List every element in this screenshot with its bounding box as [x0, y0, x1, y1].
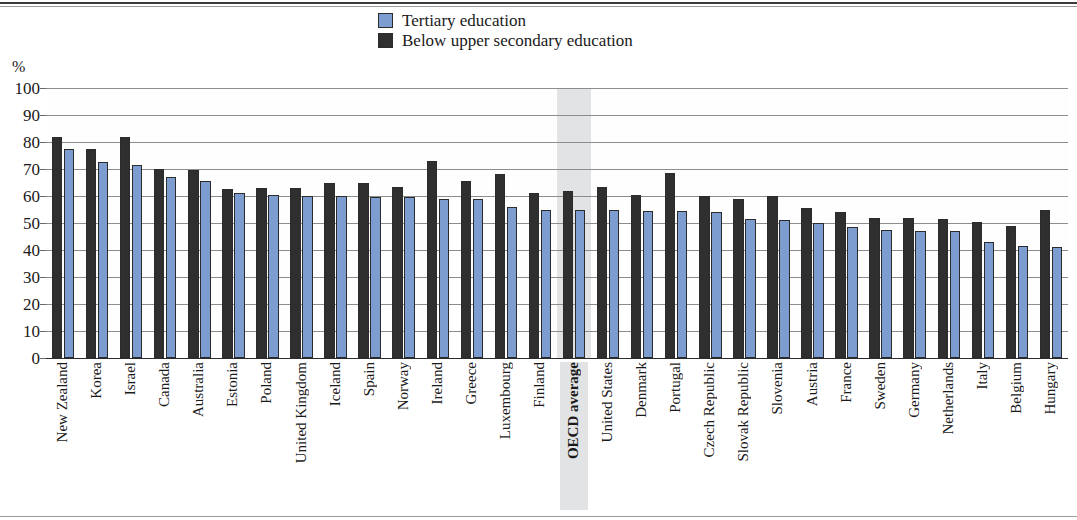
bar-group [932, 88, 966, 358]
bar-below-upper-secondary [290, 188, 301, 358]
bar-tertiary-education [370, 197, 381, 358]
bar-group [421, 88, 455, 358]
bar-group [455, 88, 489, 358]
x-axis-tick-label: Korea [89, 362, 104, 399]
bar-group [625, 88, 659, 358]
x-axis-tick-label: Luxembourg [498, 362, 513, 439]
bar-tertiary-education [200, 181, 211, 358]
gridline [46, 358, 1068, 359]
y-axis-tick-label: 40 [23, 242, 40, 259]
x-axis-tick-label: Netherlands [941, 362, 956, 434]
legend-item-label: Below upper secondary education [402, 32, 633, 49]
y-axis-tick-label: 70 [23, 161, 40, 178]
bar-below-upper-secondary [631, 195, 642, 358]
x-axis-tick-label: Austria [805, 362, 820, 406]
bar-below-upper-secondary [972, 222, 983, 358]
bar-tertiary-education [915, 231, 926, 358]
x-axis-tick-label: Poland [259, 362, 274, 404]
bar-tertiary-education [1052, 247, 1063, 358]
bar-below-upper-secondary [869, 218, 880, 358]
bar-group [319, 88, 353, 358]
bar-tertiary-education [507, 207, 518, 358]
legend-item: Below upper secondary education [378, 32, 633, 49]
bar-group [489, 88, 523, 358]
bar-below-upper-secondary [597, 187, 608, 358]
y-axis-tick-label: 10 [23, 323, 40, 340]
bar-tertiary-education [950, 231, 961, 358]
legend-swatch-tertiary [378, 13, 393, 28]
bar-below-upper-secondary [495, 174, 506, 358]
y-axis-unit-label: % [12, 58, 25, 76]
bar-group [80, 88, 114, 358]
x-axis-tick-label: Belgium [1009, 362, 1024, 414]
x-axis-tick-label: Israel [123, 362, 138, 395]
bar-below-upper-secondary [461, 181, 472, 358]
bar-tertiary-education [404, 197, 415, 358]
bar-group [659, 88, 693, 358]
bar-group [250, 88, 284, 358]
x-axis-tick-label: Estonia [225, 362, 240, 407]
x-axis-tick-label: Australia [191, 362, 206, 417]
bar-below-upper-secondary [188, 170, 199, 358]
bar-tertiary-education [439, 199, 450, 358]
x-axis-tick-label: Slovak Republic [736, 362, 751, 462]
x-axis-labels: New ZealandKoreaIsraelCanadaAustraliaEst… [46, 362, 1068, 512]
bar-below-upper-secondary [801, 208, 812, 358]
bar-group [557, 88, 591, 358]
bar-group [387, 88, 421, 358]
bar-tertiary-education [166, 177, 177, 358]
bar-below-upper-secondary [256, 188, 267, 358]
bar-group [795, 88, 829, 358]
bar-below-upper-secondary [767, 196, 778, 358]
bar-below-upper-secondary [86, 149, 97, 358]
x-axis-tick-label: Spain [362, 362, 377, 396]
x-axis-tick-label: New Zealand [55, 362, 70, 442]
bar-group [182, 88, 216, 358]
bar-tertiary-education [1018, 246, 1029, 358]
bar-tertiary-education [711, 212, 722, 358]
y-axis-tick-label: 80 [23, 134, 40, 151]
x-axis-tick-label: United States [600, 362, 615, 442]
x-axis-tick-label: Slovenia [770, 362, 785, 415]
top-divider [0, 2, 1077, 4]
bar-group [591, 88, 625, 358]
bar-group [1000, 88, 1034, 358]
bar-tertiary-education [64, 149, 75, 358]
bar-below-upper-secondary [699, 196, 710, 358]
legend-swatch-below [378, 33, 393, 48]
bar-tertiary-education [234, 193, 245, 358]
bar-tertiary-education [336, 196, 347, 358]
bar-below-upper-secondary [938, 219, 949, 358]
bar-tertiary-education [779, 220, 790, 358]
y-axis-tick-label: 20 [23, 296, 40, 313]
bar-series-container [46, 88, 1068, 358]
bar-tertiary-education [268, 195, 279, 358]
bar-tertiary-education [881, 230, 892, 358]
bar-group [148, 88, 182, 358]
x-axis-tick-label: Norway [396, 362, 411, 410]
bar-group [693, 88, 727, 358]
bar-group [284, 88, 318, 358]
x-axis-tick-label: Canada [157, 362, 172, 407]
legend-item-label: Tertiary education [402, 12, 526, 29]
bar-tertiary-education [677, 211, 688, 358]
x-axis-tick-label: Greece [464, 362, 479, 404]
bar-group [761, 88, 795, 358]
bar-below-upper-secondary [1040, 210, 1051, 359]
bar-below-upper-secondary [154, 169, 165, 358]
top-divider-secondary [0, 6, 1077, 7]
x-axis-tick-label: OECD average [566, 362, 581, 459]
x-axis-tick-label: Sweden [873, 362, 888, 410]
legend-item: Tertiary education [378, 12, 633, 29]
bar-below-upper-secondary [120, 137, 131, 358]
bar-below-upper-secondary [733, 199, 744, 358]
bar-tertiary-education [302, 196, 313, 358]
bar-tertiary-education [609, 210, 620, 359]
bar-tertiary-education [745, 219, 756, 358]
chart-legend: Tertiary educationBelow upper secondary … [378, 12, 633, 49]
bar-below-upper-secondary [1006, 226, 1017, 358]
bar-below-upper-secondary [222, 189, 233, 358]
bar-below-upper-secondary [903, 218, 914, 358]
bar-group [966, 88, 1000, 358]
bar-below-upper-secondary [324, 183, 335, 359]
